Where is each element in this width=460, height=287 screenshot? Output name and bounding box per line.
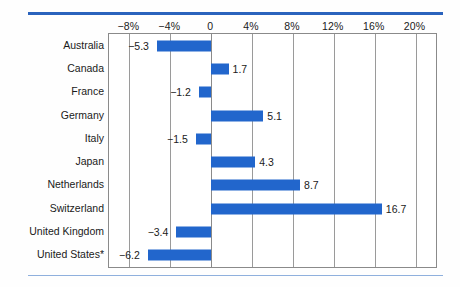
- bar: [148, 250, 211, 261]
- y-axis-category-labels: AustraliaCanadaFranceGermanyItalyJapanNe…: [0, 33, 104, 268]
- bar: [199, 87, 211, 98]
- bar-value-label: −5.3: [128, 40, 149, 52]
- x-tick-label: 12%: [322, 20, 344, 32]
- gridline-minus8%: [129, 34, 130, 267]
- bar: [157, 40, 211, 51]
- top-rule: [28, 12, 443, 15]
- bar-value-label: −1.2: [170, 86, 191, 98]
- bar: [211, 203, 382, 214]
- bar-value-label: −6.2: [119, 249, 140, 261]
- gridline-8%: [293, 34, 294, 267]
- gridline-minus4%: [170, 34, 171, 267]
- x-tick-label: −8%: [117, 20, 139, 32]
- x-tick-label: 0: [207, 20, 213, 32]
- bar: [211, 63, 228, 74]
- category-label: Germany: [61, 109, 104, 121]
- bottom-rule: [28, 275, 443, 276]
- x-tick-label: −4%: [158, 20, 180, 32]
- bar-value-label: −1.5: [167, 133, 188, 145]
- x-tick-label: 20%: [404, 20, 426, 32]
- bar-value-label: 16.7: [386, 203, 406, 215]
- bar: [196, 133, 211, 144]
- bar-value-label: 5.1: [267, 110, 282, 122]
- category-label: France: [71, 85, 104, 97]
- gridline-16%: [375, 34, 376, 267]
- bar-value-label: 1.7: [233, 63, 248, 75]
- x-tick-label: 8%: [284, 20, 300, 32]
- category-label: Australia: [63, 39, 104, 51]
- plot-area: −5.31.7−1.25.1−1.54.38.716.7−3.4−6.2: [108, 33, 437, 268]
- gridline-20%: [416, 34, 417, 267]
- x-tick-label: 4%: [243, 20, 259, 32]
- chart-figure: −8%−4%04%8%12%16%20% AustraliaCanadaFran…: [0, 0, 460, 287]
- category-label: Japan: [75, 155, 104, 167]
- bar-value-label: 4.3: [259, 156, 274, 168]
- bar: [211, 110, 263, 121]
- bar: [176, 227, 211, 238]
- category-label: Switzerland: [50, 202, 104, 214]
- category-label: United Kingdom: [29, 225, 104, 237]
- category-label: Canada: [67, 62, 104, 74]
- category-label: Netherlands: [47, 178, 104, 190]
- category-label: Italy: [85, 132, 104, 144]
- gridline-4%: [252, 34, 253, 267]
- bar: [211, 157, 255, 168]
- category-label: United States*: [37, 248, 104, 260]
- x-tick-label: 16%: [363, 20, 385, 32]
- gridline-12%: [334, 34, 335, 267]
- bar-value-label: −3.4: [148, 226, 169, 238]
- bar-value-label: 8.7: [304, 179, 319, 191]
- bar: [211, 180, 300, 191]
